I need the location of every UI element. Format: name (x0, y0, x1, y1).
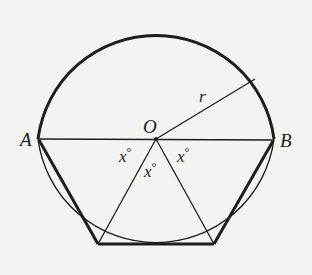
chord-a-p1 (39, 140, 98, 244)
angle-label-left: x° (118, 145, 132, 166)
angle-label-middle: x° (143, 160, 157, 181)
angle-label-right: x° (176, 145, 190, 166)
label-r: r (199, 87, 206, 106)
lower-arc (38, 139, 274, 243)
circle-geometry-diagram: A B O r x° x° x° (0, 0, 312, 275)
chord-p2-b (214, 141, 273, 244)
label-b: B (280, 130, 292, 151)
label-o: O (143, 116, 157, 137)
label-a: A (18, 129, 32, 150)
center-point-o (154, 137, 158, 141)
